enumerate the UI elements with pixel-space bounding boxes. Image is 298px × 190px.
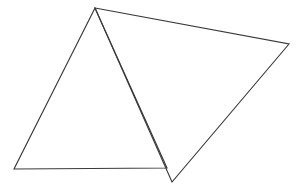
figure-background [0,0,298,190]
geometry-figure-canvas [0,0,298,190]
